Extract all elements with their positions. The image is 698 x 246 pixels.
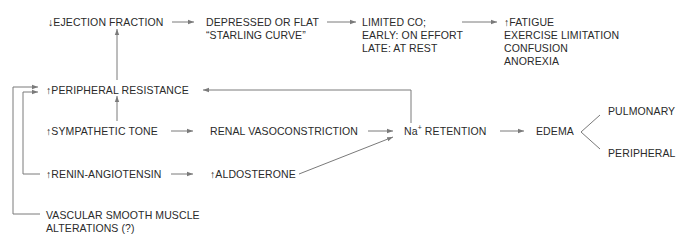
node-text: ↑SYMPATHETIC TONE [46,125,158,138]
na-symbol: Na [404,125,418,137]
node-text: LATE: AT REST [362,42,463,55]
node-renal-vasoconstriction: RENAL VASOCONSTRICTION [210,125,358,138]
node-pulmonary: PULMONARY [608,105,675,118]
arrow-na-to-pr [203,90,411,123]
heart-failure-flow-diagram: ↓EJECTION FRACTION DEPRESSED OR FLAT “ST… [0,0,698,246]
node-vascular-smooth-muscle: VASCULAR SMOOTH MUSCLE ALTERATIONS (?) [46,209,200,235]
node-peripheral-resistance: ↑PERIPHERAL RESISTANCE [46,84,189,97]
plus-superscript: + [418,124,422,131]
node-text: EXERCISE LIMITATION [504,29,619,42]
node-symptoms: ↑FATIGUE EXERCISE LIMITATION CONFUSION A… [504,16,619,68]
node-text: EDEMA [536,125,574,138]
node-edema: EDEMA [536,125,574,138]
node-text: PERIPHERAL [608,147,676,160]
node-aldosterone: ↑ALDOSTERONE [210,168,296,181]
node-text: CONFUSION [504,42,619,55]
node-peripheral: PERIPHERAL [608,147,676,160]
branch-edema [581,115,600,149]
node-na-retention: Na+ RETENTION [404,125,486,138]
node-text: PULMONARY [608,105,675,118]
node-starling-curve: DEPRESSED OR FLAT “STARLING CURVE” [206,16,319,42]
node-text: ALTERATIONS (?) [46,222,200,235]
node-limited-co: LIMITED CO; EARLY: ON EFFORT LATE: AT RE… [362,16,463,55]
arrow-vascular-to-pr [13,87,40,214]
node-text: ↑FATIGUE [504,16,619,29]
node-text: Na+ RETENTION [404,125,486,138]
arrow-renin-to-pr [23,92,40,174]
node-text: “STARLING CURVE” [206,29,319,42]
node-text: ↑RENIN-ANGIOTENSIN [46,168,162,181]
node-text: ↑PERIPHERAL RESISTANCE [46,84,189,97]
node-text: ↓EJECTION FRACTION [48,16,164,29]
arrow-aldosterone-to-na [299,137,393,174]
node-text: DEPRESSED OR FLAT [206,16,319,29]
node-text: RENAL VASOCONSTRICTION [210,125,358,138]
node-renin-angiotensin: ↑RENIN-ANGIOTENSIN [46,168,162,181]
node-text: ↑ALDOSTERONE [210,168,296,181]
node-text: LIMITED CO; [362,16,463,29]
node-text: ANOREXIA [504,55,619,68]
node-sympathetic-tone: ↑SYMPATHETIC TONE [46,125,158,138]
node-text: VASCULAR SMOOTH MUSCLE [46,209,200,222]
node-text: EARLY: ON EFFORT [362,29,463,42]
retention-text: RETENTION [422,125,487,137]
node-ejection-fraction: ↓EJECTION FRACTION [48,16,164,29]
